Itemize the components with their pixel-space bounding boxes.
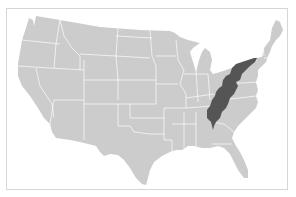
us-map [0, 0, 296, 197]
